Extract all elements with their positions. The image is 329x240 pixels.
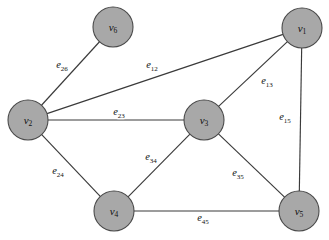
- edge-label-e24: e24: [52, 165, 64, 178]
- edge-labels-layer: e26e12e13e15e23e24e34e35e45: [52, 59, 291, 225]
- edge-label-e35: e35: [232, 167, 244, 180]
- graph-edge-e34: [128, 134, 190, 197]
- graph-edge-e15: [299, 48, 301, 191]
- edge-label-e13: e13: [261, 75, 273, 88]
- edge-label-e45: e45: [197, 212, 209, 225]
- graph-node-v2: v2: [8, 100, 48, 140]
- graph-edge-e12: [47, 34, 283, 113]
- edge-label-e34: e34: [145, 151, 157, 164]
- graph-node-v5: v5: [279, 191, 319, 231]
- graph-edge-e26: [41, 42, 99, 105]
- graph-node-v4: v4: [94, 191, 134, 231]
- graph-edge-e35: [218, 134, 284, 197]
- graph-node-v1: v1: [282, 8, 322, 48]
- graph-node-v6: v6: [93, 7, 133, 47]
- graph-canvas: v6v1v2v3v4v5 e26e12e13e15e23e24e34e35e45: [0, 0, 329, 240]
- graph-node-v3: v3: [184, 100, 224, 140]
- graph-edge-e13: [219, 42, 288, 107]
- graph-edge-e24: [42, 135, 101, 197]
- edge-label-e23: e23: [113, 106, 125, 119]
- edge-label-e15: e15: [279, 111, 291, 124]
- nodes-layer: v6v1v2v3v4v5: [8, 7, 322, 231]
- edge-label-e12: e12: [146, 59, 158, 72]
- edge-label-e26: e26: [56, 59, 68, 72]
- edges-layer: [41, 34, 301, 211]
- graph-diagram: v6v1v2v3v4v5 e26e12e13e15e23e24e34e35e45: [0, 0, 329, 240]
